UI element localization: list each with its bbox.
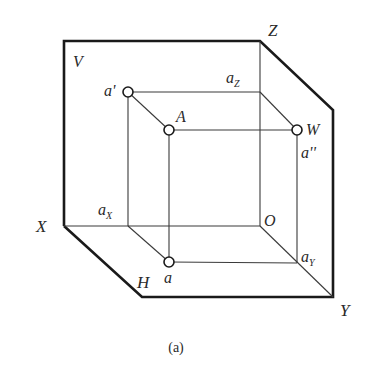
point-a	[164, 257, 174, 267]
label-Z: Z	[268, 21, 278, 40]
label-a: a	[164, 269, 172, 286]
label-aX: aX	[98, 201, 113, 221]
label-aY: aY	[301, 248, 316, 268]
label-H: H	[136, 273, 151, 292]
point-A	[164, 125, 174, 135]
figure-caption: (a)	[168, 340, 184, 356]
line-az-adoubleprime	[260, 92, 297, 130]
label-V: V	[73, 53, 85, 70]
label-Y: Y	[340, 301, 351, 320]
label-W: W	[306, 121, 321, 138]
line-aprime-A	[128, 92, 169, 130]
line-ax-a	[128, 226, 169, 262]
label-a-prime: a'	[104, 82, 116, 99]
label-a-double-prime: a''	[301, 144, 316, 161]
label-aZ: aZ	[226, 69, 240, 89]
v-plane-outline	[64, 41, 333, 297]
line-a-ay	[169, 262, 297, 263]
projection-diagram: Z V a' aZ A W a'' aX X O aY a H Y (a)	[0, 0, 365, 376]
label-O: O	[264, 212, 276, 229]
label-X: X	[35, 217, 47, 236]
label-A: A	[175, 108, 186, 125]
point-a-double-prime	[292, 125, 302, 135]
point-a-prime	[123, 87, 133, 97]
